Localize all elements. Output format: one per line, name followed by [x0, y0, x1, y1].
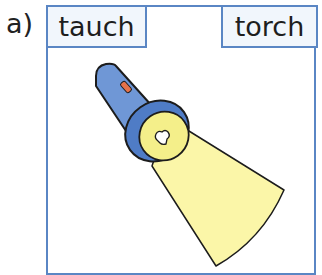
option-left-text: tauch	[58, 11, 134, 42]
option-right-text: torch	[235, 11, 305, 42]
option-left[interactable]: tauch	[46, 5, 147, 48]
option-right[interactable]: torch	[221, 5, 318, 48]
